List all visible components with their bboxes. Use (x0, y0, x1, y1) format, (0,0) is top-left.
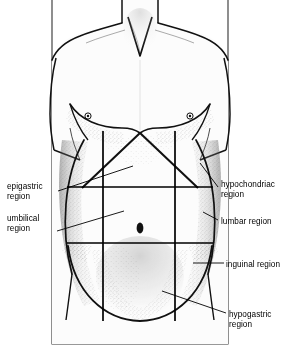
torso-illustration (0, 0, 299, 353)
label-inguinal-region: inguinal region (226, 260, 280, 270)
abdominal-regions-figure: epigastric region umbilical region hypoc… (0, 0, 299, 353)
label-epigastric-region: epigastric region (7, 182, 43, 201)
label-hypogastric-region: hypogastric region (229, 310, 271, 329)
navel (137, 223, 144, 234)
label-lumbar-region: lumbar region (221, 217, 272, 227)
label-umbilical-region: umbilical region (7, 214, 39, 233)
label-hypochondriac-region: hypochondriac region (221, 180, 275, 199)
